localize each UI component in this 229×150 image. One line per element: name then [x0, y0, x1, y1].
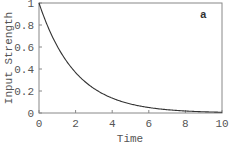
- y-tick-label: 0.8: [14, 20, 34, 32]
- y-tick-label: 0.4: [14, 64, 34, 76]
- x-tick-label: 0: [36, 118, 43, 130]
- x-axis-label: Time: [117, 133, 143, 145]
- data-curve: [39, 3, 222, 112]
- y-tick-label: 0.2: [14, 86, 34, 98]
- line-chart: 00.20.40.60.81 0246810 a Time Input Stre…: [0, 0, 229, 150]
- panel-label: a: [200, 9, 207, 21]
- x-tick-label: 2: [72, 118, 79, 130]
- x-tick-label: 6: [145, 118, 152, 130]
- x-tick-label: 4: [109, 118, 116, 130]
- x-tick-label: 10: [215, 118, 228, 130]
- plot-frame: [39, 3, 222, 113]
- x-tick-label: 8: [182, 118, 189, 130]
- y-tick-label: 0.6: [14, 42, 34, 54]
- y-axis-label: Input Strength: [3, 12, 15, 104]
- y-tick-label: 0: [27, 108, 34, 120]
- y-tick-label: 1: [27, 0, 34, 10]
- y-axis-ticks: 00.20.40.60.81: [14, 0, 42, 120]
